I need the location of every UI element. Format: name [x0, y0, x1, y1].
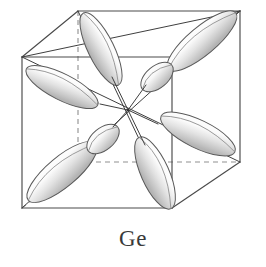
figure-caption: Ge [0, 226, 266, 251]
cell-center-point [126, 108, 129, 111]
figure-root: Ge [0, 0, 266, 267]
